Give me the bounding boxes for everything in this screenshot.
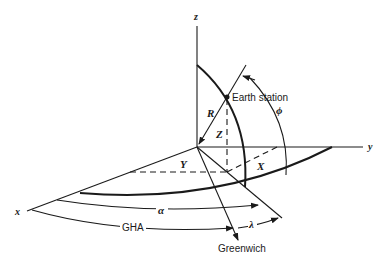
z-component-label: Z (215, 128, 223, 140)
radius-label: R (206, 107, 214, 119)
x-component-label: X (256, 160, 265, 172)
lambda-label: λ (248, 218, 254, 230)
phi-arrow (243, 76, 255, 80)
earth-station-coordinate-diagram: z y x ϕ R Earth station Z Y X Greenwich … (0, 0, 386, 263)
lambda-arc (238, 218, 278, 228)
earth-station-label: Earth station (232, 92, 288, 103)
station-meridian-arc (197, 65, 245, 187)
alpha-label: α (158, 204, 165, 216)
gha-label: GHA (122, 222, 144, 233)
x-axis-label: x (14, 206, 20, 217)
z-axis-label: z (193, 11, 198, 22)
earth-station-point (225, 95, 230, 100)
y-axis-label: y (367, 141, 373, 152)
x-axis (27, 147, 197, 211)
phi-label: ϕ (276, 104, 283, 116)
x-component-line (227, 147, 277, 172)
greenwich-label: Greenwich (218, 243, 266, 254)
y-component-label: Y (180, 158, 188, 170)
radius-vector (199, 97, 227, 144)
station-longitude-line (197, 147, 282, 218)
greenwich-line (197, 147, 238, 240)
